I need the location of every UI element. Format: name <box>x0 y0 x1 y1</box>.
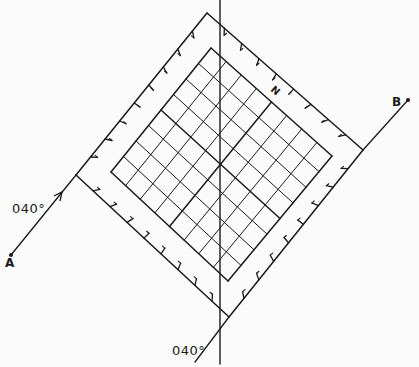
hachure-tick <box>284 235 286 237</box>
grid-line <box>184 116 287 241</box>
hachure-tick <box>284 237 289 242</box>
hachure-tick <box>194 277 196 279</box>
bearing-bottom-label: 040° <box>172 344 205 357</box>
hachure-tick <box>151 88 153 90</box>
hachure-tick <box>298 220 304 224</box>
outer-boundary <box>76 175 229 317</box>
hachure-tick <box>326 186 333 187</box>
hachure-tick <box>114 202 116 204</box>
point-b-label: B <box>392 96 402 108</box>
hachure-tick <box>162 246 164 248</box>
grid-line <box>228 156 332 281</box>
hachure-tick <box>305 106 307 108</box>
hachure-tick <box>298 218 300 220</box>
outer-boundary <box>76 13 207 175</box>
hachure-tick <box>144 233 149 238</box>
grid-line <box>149 126 268 235</box>
grid-line <box>111 172 228 281</box>
grid-line <box>136 141 254 250</box>
hachure-tick <box>178 261 180 263</box>
point-a-label: A <box>5 257 15 269</box>
hachure-tick <box>243 290 245 292</box>
hachure-tick <box>257 271 259 273</box>
hachure-tick <box>93 189 100 190</box>
hachure-tick <box>131 217 133 219</box>
hachure-tick <box>210 292 212 294</box>
hachure-tick <box>195 279 196 286</box>
hachure-tick <box>289 92 291 94</box>
hachure-tick <box>161 248 165 254</box>
hachure-tick <box>110 204 117 207</box>
hachure-tick <box>312 201 314 203</box>
point-b-dot <box>406 98 410 102</box>
hachure-tick <box>138 105 140 107</box>
hachure-tick <box>127 219 133 223</box>
hachure-tick <box>97 187 99 189</box>
bearing-left-label: 040° <box>12 202 45 215</box>
hachure-tick <box>270 253 272 255</box>
outer-boundary <box>207 13 363 150</box>
diagram-figure <box>0 0 419 367</box>
hachure-tick <box>257 273 259 280</box>
hachure-tick <box>270 255 273 261</box>
grid-line <box>213 143 317 268</box>
hachure-tick <box>326 184 328 186</box>
outer-boundary <box>229 150 363 317</box>
diagram-canvas: A B 040° 040° N <box>0 0 419 367</box>
hachure-tick <box>312 203 318 206</box>
hachure-tick <box>147 231 149 233</box>
hachure-tick <box>243 292 244 299</box>
grid-line <box>124 157 242 266</box>
hachure-tick <box>178 263 181 269</box>
